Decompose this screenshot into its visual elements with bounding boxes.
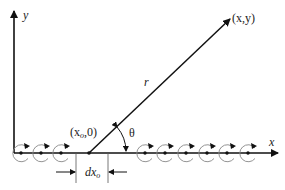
radius-label: r bbox=[144, 75, 149, 89]
y-axis-label: y bbox=[22, 8, 29, 22]
dx-label: dxo bbox=[85, 165, 100, 180]
x-axis-label: x bbox=[268, 135, 275, 149]
source-point-label: (xo,0) bbox=[70, 125, 97, 140]
vortex-sheet-diagram: y x (x,y) r θ (xo,0) dxo bbox=[0, 0, 285, 190]
angle-arc bbox=[117, 127, 126, 151]
point-label: (x,y) bbox=[232, 11, 255, 25]
source-point bbox=[87, 151, 91, 155]
angle-label: θ bbox=[129, 126, 135, 140]
radius-vector bbox=[89, 19, 230, 153]
